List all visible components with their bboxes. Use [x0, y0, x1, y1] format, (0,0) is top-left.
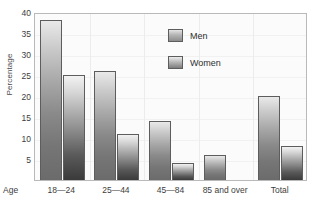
y-tick-10: 10 — [11, 134, 31, 144]
y-tick-15: 15 — [11, 113, 31, 123]
vgridline — [144, 14, 145, 180]
x-tick-label-2: 45—84 — [157, 185, 184, 195]
vgridline — [90, 14, 91, 180]
legend-item-men[interactable]: Men — [168, 25, 264, 46]
legend-item-women[interactable]: Women — [168, 52, 264, 73]
bar-men-2[interactable] — [149, 121, 171, 180]
bar-men-0[interactable] — [40, 20, 62, 180]
y-tick-40: 40 — [11, 8, 31, 18]
men-swatch-icon — [168, 29, 183, 42]
bar-men-3[interactable] — [204, 155, 226, 180]
y-tick-20: 20 — [11, 92, 31, 102]
x-tick-label-0: 18—24 — [48, 185, 75, 195]
y-tick-30: 30 — [11, 50, 31, 60]
x-tick-label-3: 85 and over — [203, 185, 248, 195]
bar-men-1[interactable] — [94, 71, 116, 180]
x-tick-label-1: 25—44 — [102, 185, 129, 195]
y-axis-tick-labels: 403530252015105 — [0, 0, 31, 212]
bar-women-4[interactable] — [281, 146, 303, 180]
women-swatch-icon — [168, 56, 183, 69]
bar-women-0[interactable] — [63, 75, 85, 180]
y-tick-35: 35 — [11, 29, 31, 39]
x-axis-title: Age — [3, 185, 18, 195]
legend-label-women: Women — [190, 58, 221, 68]
legend-label-men: Men — [190, 31, 208, 41]
legend: Men Women — [168, 25, 264, 79]
y-tick-25: 25 — [11, 71, 31, 81]
y-tick-5: 5 — [11, 155, 31, 165]
bar-chart: Percentage 403530252015105 Men Women 18—… — [0, 0, 314, 212]
bar-men-4[interactable] — [258, 96, 280, 180]
bar-women-2[interactable] — [172, 163, 194, 180]
x-tick-label-4: Total — [271, 185, 289, 195]
x-axis-tick-labels: 18—2425—4445—8485 and overTotalAge — [0, 185, 314, 205]
bar-women-1[interactable] — [117, 134, 139, 180]
